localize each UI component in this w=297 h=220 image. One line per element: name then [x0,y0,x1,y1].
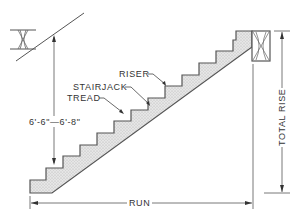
header-block [252,31,270,61]
stairjack-stringer [30,31,252,193]
joist-cross-icon [18,30,28,49]
run-dimension: RUN [30,64,253,209]
tread-callout: TREAD [67,93,124,114]
upper-floor-joist [10,13,84,61]
stairjack-label: STAIRJACK [73,82,127,92]
run-label: RUN [129,198,150,208]
stair-diagram: 6'-6"—6'-8" RISER STAIRJACK TREAD RUN [0,0,297,220]
total-rise-label: TOTAL RISE [277,89,287,146]
headroom-label: 6'-6"—6'-8" [29,117,80,127]
riser-label: RISER [119,69,150,79]
tread-label: TREAD [67,93,101,103]
